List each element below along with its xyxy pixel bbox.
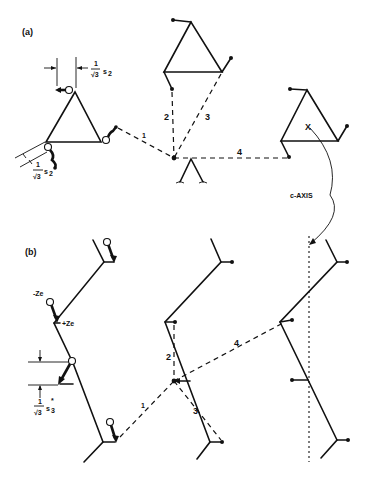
svg-text:*: *	[51, 397, 54, 404]
ion-circle	[45, 144, 52, 151]
svg-text:2: 2	[164, 112, 169, 122]
dimension-label-top: 1 √3 s 2	[91, 60, 112, 78]
c-axis-curve-arrow	[310, 128, 335, 244]
middle-triangle-group	[164, 18, 233, 91]
ion-circle	[47, 299, 54, 306]
svg-text:2: 2	[49, 170, 53, 177]
panel-a: (a) 1 √3 s 2	[15, 18, 349, 245]
distance-line-4-b	[174, 323, 283, 381]
distance-line-3	[174, 74, 221, 158]
dimension-label-left: 1 √3 s 2	[33, 161, 53, 180]
panel-b: (b) -Ze +Ze	[25, 236, 350, 462]
ion-circle	[107, 419, 114, 426]
svg-text:1: 1	[142, 132, 146, 139]
panel-b-label: (b)	[25, 247, 37, 257]
svg-text:s: s	[44, 168, 48, 175]
right-triangle	[281, 90, 338, 141]
dim-diag-2	[20, 152, 47, 167]
svg-text:s: s	[46, 405, 50, 412]
reference-ion	[172, 156, 177, 161]
figure-canvas: (a) 1 √3 s 2	[0, 0, 370, 478]
right-triangle-group: X c-AXIS	[281, 87, 349, 245]
right-chain	[280, 236, 350, 462]
dimension-label-b: 1 √3 s 3 *	[34, 397, 55, 416]
svg-text:√3: √3	[33, 173, 41, 180]
ion-circle	[104, 239, 111, 246]
panel-a-label: (a)	[22, 27, 33, 37]
ion-circle	[66, 87, 73, 94]
ion-circle	[103, 137, 110, 144]
svg-text:2: 2	[166, 352, 171, 362]
charge-pos-label: +Ze	[62, 320, 74, 327]
distance-line-1-b	[120, 381, 174, 437]
chain-backbone	[54, 240, 104, 462]
svg-text:1: 1	[38, 398, 42, 405]
stand	[180, 159, 203, 182]
distance-line-1	[118, 128, 174, 158]
chain-backbone	[165, 239, 221, 459]
displacement-chain	[50, 150, 56, 168]
middle-chain	[165, 239, 234, 459]
svg-text:2: 2	[108, 70, 112, 77]
distance-lines-b: 1 2 3 4	[120, 323, 283, 440]
svg-text:3: 3	[205, 112, 210, 122]
svg-text:3: 3	[193, 406, 198, 416]
distance-line-2	[172, 92, 174, 158]
svg-text:√3: √3	[34, 409, 42, 416]
svg-text:1: 1	[94, 60, 98, 67]
arrowhead-icon	[77, 66, 82, 70]
left-triangle	[46, 92, 101, 142]
c-axis-label: c-AXIS	[290, 192, 313, 199]
left-triangle-group: 1 √3 s 2 1	[15, 57, 118, 180]
charge-neg-label: -Ze	[33, 290, 44, 297]
arrowhead-icon	[51, 66, 56, 70]
distance-lines-a: 1 2 3 4	[118, 74, 289, 183]
middle-triangle	[164, 22, 222, 72]
svg-text:3: 3	[51, 407, 55, 414]
ion-circle	[69, 358, 76, 365]
svg-text:s: s	[103, 68, 107, 75]
displacement-chain	[108, 127, 116, 137]
svg-text:√3: √3	[91, 71, 99, 78]
axis-marker: X	[305, 122, 311, 132]
left-chain: -Ze +Ze 1 √3 s 3 *	[28, 239, 119, 463]
svg-text:4: 4	[234, 338, 239, 348]
svg-text:1: 1	[141, 402, 145, 409]
svg-text:4: 4	[237, 147, 242, 157]
svg-text:1: 1	[36, 161, 40, 168]
